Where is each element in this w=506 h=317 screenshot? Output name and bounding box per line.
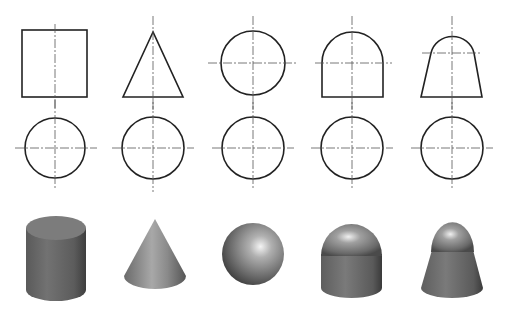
top-view-domed-cylinder: [311, 100, 393, 190]
front-view-sphere: [208, 16, 296, 110]
solid-cylinder: [26, 216, 86, 301]
front-view-cone: [123, 16, 183, 110]
solid-sphere: [222, 223, 284, 285]
top-view-sphere: [212, 100, 294, 190]
top-view-domed-frustum: [411, 100, 493, 190]
top-view-cone: [112, 100, 194, 192]
front-view-domed-frustum: [421, 16, 482, 110]
solid-cone: [124, 219, 186, 289]
solid-domed-cylinder: [321, 224, 382, 298]
solid-domed-frustum: [421, 222, 483, 298]
top-view-cylinder: [15, 100, 97, 190]
front-view-cylinder: [22, 24, 87, 110]
front-view-domed-cylinder: [315, 16, 392, 110]
projection-diagram: [0, 0, 506, 317]
